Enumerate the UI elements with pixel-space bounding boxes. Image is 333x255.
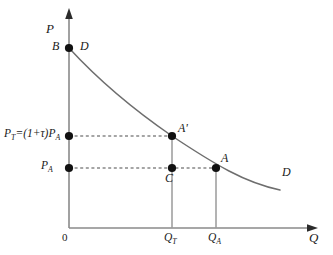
axis-label-origin: 0	[62, 232, 68, 243]
price-guide-lines-group	[69, 136, 216, 168]
point-pa-axis	[65, 164, 73, 172]
quantity-label-taxed: QT	[164, 232, 177, 246]
point-label-a-prime: A'	[178, 122, 188, 134]
point-label-b: B	[52, 40, 59, 52]
axes-group	[65, 8, 318, 232]
curve-label-d-start: D	[80, 40, 89, 52]
demand-curve-diagram: P Q 0 B D D A' A C PT=(1+τ)PA PA QT QA	[0, 0, 333, 255]
price-label-pt-base: P	[4, 127, 11, 139]
price-label-pa-base: P	[41, 159, 48, 171]
quantity-label-autarky: QA	[208, 232, 221, 246]
price-label-pt-expression: =(1+τ)P	[15, 127, 55, 139]
y-axis-arrowhead	[65, 8, 73, 19]
point-a-prime	[168, 132, 176, 140]
curve-label-d-end: D	[282, 166, 291, 178]
point-label-a: A	[221, 152, 228, 164]
axis-label-quantity: Q	[309, 231, 318, 244]
price-label-pt-expression-subscript: A	[55, 133, 60, 142]
price-label-tax-inclusive: PT=(1+τ)PA	[4, 128, 60, 142]
price-label-autarky: PA	[41, 160, 53, 174]
axis-label-price: P	[46, 22, 54, 35]
quantity-label-qt-subscript: T	[172, 237, 176, 246]
quantity-label-qa-subscript: A	[216, 237, 221, 246]
price-label-pa-subscript: A	[48, 165, 53, 174]
point-pt-axis	[65, 132, 73, 140]
point-b	[65, 44, 73, 52]
point-a	[212, 164, 220, 172]
point-label-c: C	[165, 172, 173, 184]
